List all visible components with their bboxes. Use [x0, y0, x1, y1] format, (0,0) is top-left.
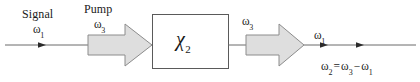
optical-parametric-diagram: Signal ω1 Pump ω3 χ2 ω3 ω1 ω2=ω3−ω1: [0, 0, 420, 82]
signal-label: Signal: [22, 8, 53, 20]
equation-lhs-subscript: 2: [329, 68, 333, 77]
output-block-arrow: [246, 24, 304, 66]
output-signal-omega-subscript: 1: [321, 37, 325, 46]
equation-term2-subscript: 1: [369, 68, 373, 77]
equation-term2-glyph: ω: [361, 60, 369, 72]
output-beam-arrowhead-second: [356, 42, 364, 48]
equation-minus-sign: −: [353, 60, 362, 72]
signal-frequency-label: ω1: [33, 24, 45, 38]
chi-glyph: χ: [176, 28, 185, 50]
chi2-crystal-box: [153, 15, 229, 69]
chi2-symbol: χ2: [176, 29, 190, 53]
signal-beam-arrowhead: [38, 42, 46, 48]
output-pump-omega-subscript: 3: [249, 23, 253, 32]
signal-omega-subscript: 1: [40, 31, 44, 40]
output-signal-frequency-label: ω1: [314, 30, 326, 44]
output-pump-frequency-label: ω3: [242, 16, 254, 30]
pump-label: Pump: [84, 3, 112, 15]
equation-term1-subscript: 3: [349, 68, 353, 77]
frequency-relation-equation: ω2=ω3−ω1: [321, 61, 373, 75]
pump-frequency-label: ω3: [94, 19, 106, 33]
equation-lhs-glyph: ω: [321, 60, 329, 72]
equation-term1-glyph: ω: [341, 60, 349, 72]
pump-omega-subscript: 3: [101, 26, 105, 35]
chi-subscript: 2: [185, 43, 191, 55]
equation-equals-sign: =: [333, 60, 342, 72]
